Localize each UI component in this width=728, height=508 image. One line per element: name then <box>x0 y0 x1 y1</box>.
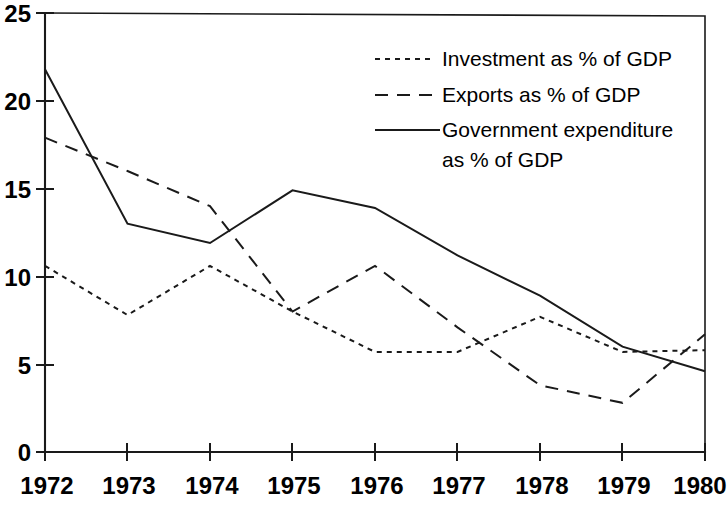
y-axis-label-15: 15 <box>4 176 31 203</box>
y-axis-label-25: 25 <box>4 0 31 27</box>
legend-label-investment: Investment as % of GDP <box>442 47 672 70</box>
x-axis-label-1980: 1980 <box>673 472 726 499</box>
series-line-exports <box>45 138 705 403</box>
legend-label-government-cont: as % of GDP <box>442 148 563 171</box>
legend-label-government: Government expenditure <box>442 118 673 141</box>
x-axis-label-1977: 1977 <box>432 472 485 499</box>
chart-legend: Investment as % of GDP Exports as % of G… <box>375 47 673 171</box>
y-axis-label-5: 5 <box>18 352 31 379</box>
line-chart: 25 20 15 10 5 0 1972 1973 1974 1975 1976 <box>0 0 728 508</box>
y-axis-label-20: 20 <box>4 88 31 115</box>
y-axis-labels: 25 20 15 10 5 0 <box>4 0 31 466</box>
x-axis-label-1972: 1972 <box>20 472 73 499</box>
x-axis-label-1974: 1974 <box>185 472 239 499</box>
x-axis-labels: 1972 1973 1974 1975 1976 1977 1978 1979 … <box>20 472 726 499</box>
chart-frame <box>45 13 705 452</box>
x-axis-label-1973: 1973 <box>102 472 155 499</box>
series-line-investment <box>45 266 705 352</box>
x-axis-label-1978: 1978 <box>515 472 568 499</box>
y-axis-label-0: 0 <box>18 439 31 466</box>
x-axis-label-1979: 1979 <box>597 472 650 499</box>
x-axis-label-1976: 1976 <box>350 472 403 499</box>
y-axis-label-10: 10 <box>4 264 31 291</box>
chart-figure: 25 20 15 10 5 0 1972 1973 1974 1975 1976 <box>0 0 728 508</box>
legend-label-exports: Exports as % of GDP <box>442 83 640 106</box>
series-line-government <box>45 69 705 371</box>
x-axis-label-1975: 1975 <box>267 472 320 499</box>
frame-top-right-border <box>45 13 705 452</box>
